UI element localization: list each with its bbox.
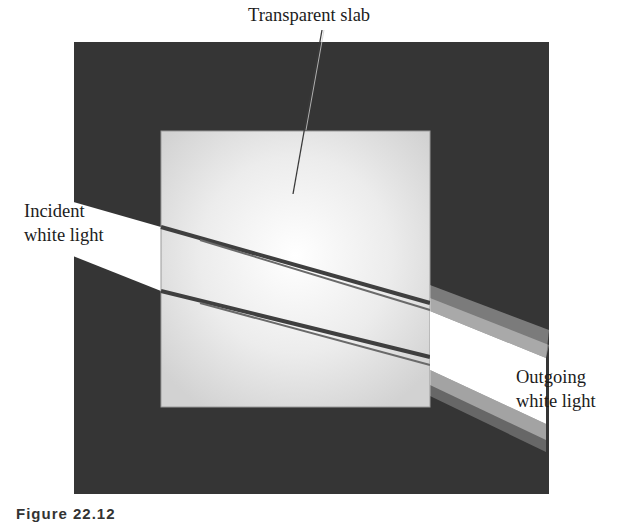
incident-label-line1: Incident [24,199,104,223]
outgoing-label-line1: Outgoing [516,365,596,389]
incident-light-label: Incident white light [24,199,104,247]
outgoing-label-line2: white light [516,389,596,413]
outgoing-light-label: Outgoing white light [516,365,596,413]
figure-caption: Figure 22.12 [16,505,116,522]
incident-label-line2: white light [24,223,104,247]
transparent-slab-label: Transparent slab [248,3,370,27]
